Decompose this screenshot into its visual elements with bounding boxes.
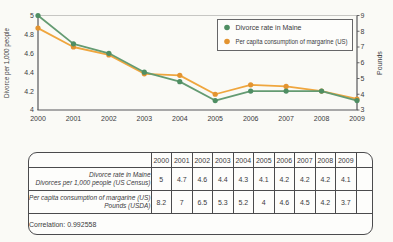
right-axis-tick-label: 4 [361, 91, 365, 98]
value-cell: 3.7 [336, 191, 357, 214]
row-label-line: Pounds (USDA) [29, 202, 151, 210]
x-axis-label: 2009 [349, 115, 365, 122]
data-point-margarine [284, 84, 289, 89]
correlation-note: Correlation: 0.992558 [29, 214, 373, 235]
legend-label: Per capita consumption of margarine (US) [236, 38, 348, 46]
data-point-divorce [213, 98, 218, 103]
value-cell: 4.2 [315, 168, 336, 191]
table-header-row: 2000200120022003200420052006200720082009 [29, 153, 373, 168]
left-axis-tick-label: 4 [30, 106, 34, 113]
value-cell: 4.2 [274, 168, 295, 191]
row-label-line: Divorce rate in Maine [29, 171, 151, 179]
header-spacer-cell [356, 153, 373, 168]
value-cell: 4.6 [274, 191, 295, 214]
divorce-margarine-line-chart: 44.24.44.64.8534567892000200120022003200… [0, 0, 393, 150]
right-axis-tick-label: 3 [361, 106, 365, 113]
value-cell: 4.3 [233, 168, 254, 191]
data-table: 2000200120022003200420052006200720082009… [29, 153, 373, 234]
x-axis-label: 2000 [30, 115, 46, 122]
value-cell: 4.1 [254, 168, 275, 191]
row-label-cell: Divorce rate in MaineDivorces per 1,000 … [29, 168, 151, 191]
x-axis-label: 2003 [137, 115, 153, 122]
value-cell: 4.5 [295, 191, 316, 214]
row-label-line: Per capita consumption of margarine (US) [29, 194, 151, 202]
table-data-row: Per capita consumption of margarine (US)… [29, 191, 373, 214]
right-axis-tick-label: 9 [361, 12, 365, 19]
year-header-cell: 2008 [315, 153, 336, 168]
x-axis-label: 2002 [101, 115, 117, 122]
data-table-card: 2000200120022003200420052006200720082009… [28, 152, 373, 235]
value-cell: 4.2 [295, 168, 316, 191]
data-point-divorce [71, 41, 76, 46]
data-point-divorce [284, 89, 289, 94]
data-point-divorce [106, 51, 111, 56]
data-point-divorce [319, 89, 324, 94]
right-axis-tick-label: 6 [361, 59, 365, 66]
left-axis-title: Divorce per 1,000 people [3, 28, 11, 98]
value-cell: 4 [254, 191, 275, 214]
value-cell: 4.7 [172, 168, 193, 191]
data-point-divorce [354, 98, 359, 103]
left-axis-tick-label: 4.2 [24, 88, 34, 95]
value-cell: 4.2 [315, 191, 336, 214]
row-label-cell: Per capita consumption of margarine (US)… [29, 191, 151, 214]
year-header-cell: 2002 [192, 153, 213, 168]
row-spacer-cell [356, 191, 373, 214]
data-point-divorce [177, 79, 182, 84]
value-cell: 7 [172, 191, 193, 214]
year-header-cell: 2006 [274, 153, 295, 168]
x-axis-label: 2006 [243, 115, 259, 122]
year-header-cell: 2000 [151, 153, 172, 168]
row-label-line: Divorces per 1,000 people (US Census) [29, 179, 151, 187]
year-header-cell: 2004 [233, 153, 254, 168]
x-axis-label: 2005 [207, 115, 223, 122]
data-point-margarine [248, 82, 253, 87]
legend-label: Divorce rate in Maine [236, 24, 302, 31]
header-empty-corner [29, 153, 151, 168]
x-axis-label: 2004 [172, 115, 188, 122]
right-axis-title: Pounds [376, 51, 383, 75]
year-header-cell: 2009 [336, 153, 357, 168]
row-spacer-cell [356, 168, 373, 191]
x-axis-label: 2008 [314, 115, 330, 122]
year-header-cell: 2001 [172, 153, 193, 168]
value-cell: 5.3 [213, 191, 234, 214]
value-cell: 4.1 [336, 168, 357, 191]
value-cell: 5.2 [233, 191, 254, 214]
data-point-margarine [177, 73, 182, 78]
year-header-cell: 2003 [213, 153, 234, 168]
right-axis-tick-label: 7 [361, 43, 365, 50]
value-cell: 4.4 [213, 168, 234, 191]
x-axis-label: 2001 [66, 115, 82, 122]
data-point-divorce [248, 89, 253, 94]
value-cell: 6.5 [192, 191, 213, 214]
x-axis-label: 2007 [278, 115, 294, 122]
value-cell: 8.2 [151, 191, 172, 214]
table-data-row: Divorce rate in MaineDivorces per 1,000 … [29, 168, 373, 191]
correlation-row: Correlation: 0.992558 [29, 214, 373, 235]
data-point-margarine [213, 92, 218, 97]
left-axis-tick-label: 4.8 [24, 31, 34, 38]
left-axis-tick-label: 5 [30, 12, 34, 19]
value-cell: 4.6 [192, 168, 213, 191]
left-axis-tick-label: 4.4 [24, 69, 34, 76]
year-header-cell: 2007 [295, 153, 316, 168]
right-axis-tick-label: 8 [361, 28, 365, 35]
data-point-margarine [35, 26, 40, 31]
value-cell: 5 [151, 168, 172, 191]
data-point-divorce [35, 13, 40, 18]
year-header-cell: 2005 [254, 153, 275, 168]
legend-swatch-divorce [224, 25, 230, 31]
spurious-correlation-figure: 44.24.44.64.8534567892000200120022003200… [0, 0, 393, 242]
left-axis-tick-label: 4.6 [24, 50, 34, 57]
right-axis-tick-label: 5 [361, 75, 365, 82]
legend-swatch-margarine [224, 39, 230, 45]
data-point-divorce [142, 70, 147, 75]
